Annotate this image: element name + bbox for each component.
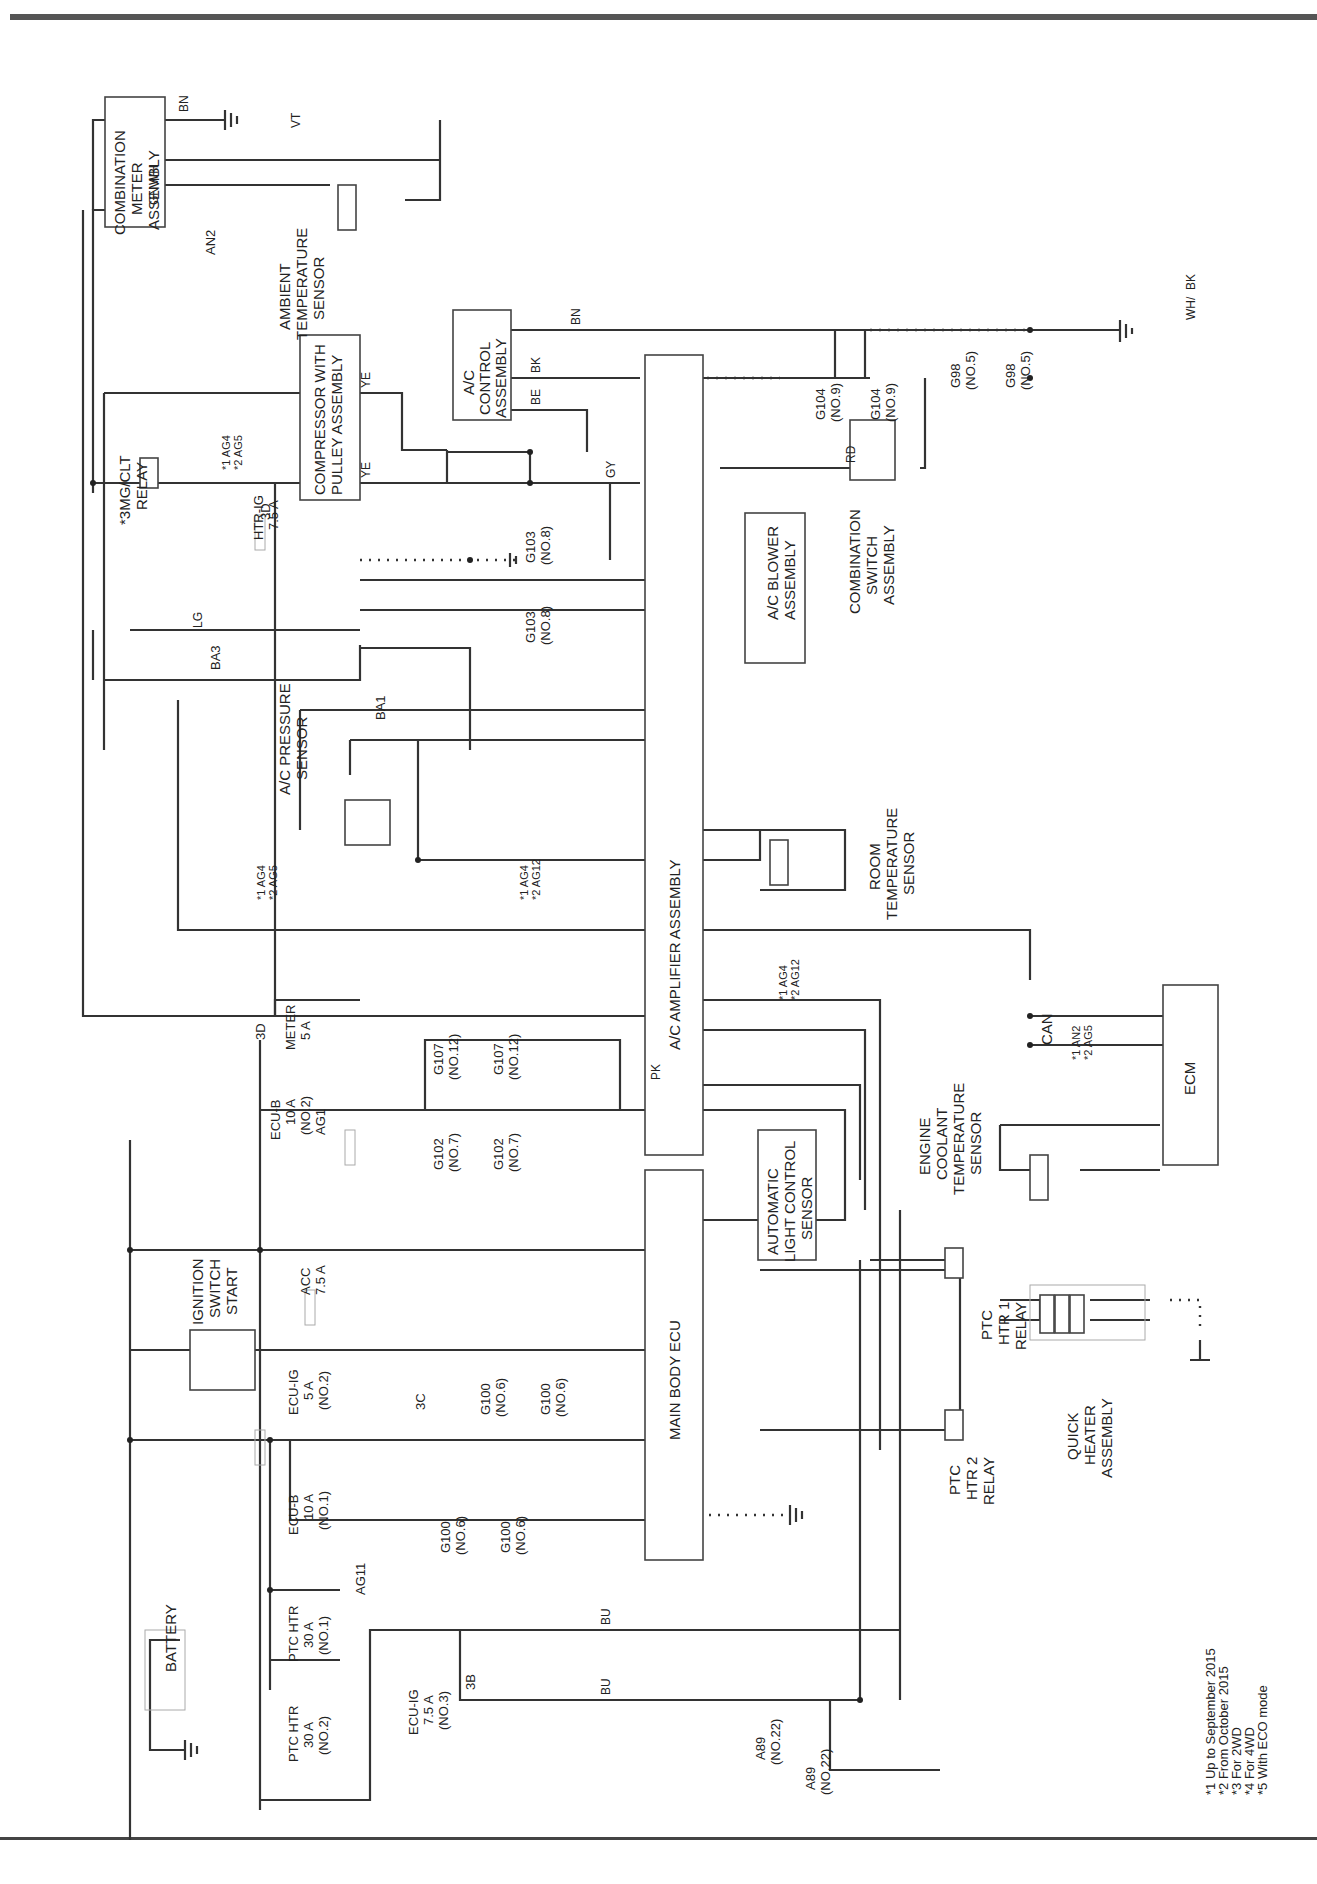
label-combination-switch-3: ASSEMBLY: [880, 525, 897, 605]
conn-an2-9: *1 AN2: [1070, 1026, 1082, 1060]
label-main-body-ecu: MAIN BODY ECU: [666, 1320, 683, 1440]
wire-bk-1: BK: [529, 357, 543, 373]
fuse-ptc2-rating: 30 A: [301, 1722, 316, 1748]
fuse-acc: [345, 1130, 355, 1165]
label-combination-switch-2: SWITCH: [863, 536, 880, 595]
heater-element-3: [1040, 1295, 1054, 1333]
a89-a-no: (NO.22): [768, 1719, 783, 1765]
label-ect-1: ENGINE: [916, 1117, 933, 1175]
label-auto-light-1: AUTOMATIC: [764, 1168, 781, 1255]
fuse-ecu-b1-name: ECU-B: [286, 1495, 301, 1535]
g98-b-no: (NO.5): [1018, 351, 1033, 390]
label-room-sensor-3: SENSOR: [900, 831, 917, 895]
g104-b: G104: [868, 388, 883, 420]
label-ignition-2: SWITCH: [206, 1259, 223, 1318]
g98-b: G98: [1003, 363, 1018, 388]
g102-b-no: (NO.7): [506, 1133, 521, 1172]
g100-c: G100: [438, 1521, 453, 1553]
g100-d: G100: [498, 1521, 513, 1553]
fuse-ecu-ig2-no: (NO.2): [316, 1371, 331, 1410]
conn-ag5-2: *2 AG5: [232, 435, 244, 470]
label-ac-pressure-2: SENSOR: [293, 716, 310, 780]
g100-d-no: (NO.6): [513, 1516, 528, 1555]
label-ac-control-2: CONTROL: [476, 342, 493, 415]
conn-ba3: BA3: [208, 645, 223, 670]
label-battery: BATTERY: [162, 1604, 179, 1672]
wire-gy-1: GY: [604, 461, 618, 478]
conn-3d-a: 3D: [258, 503, 273, 520]
wiring-diagram: COMBINATION METER ASSEMBLY AMBIENT TEMPE…: [0, 0, 1317, 1884]
conn-ag11: AG11: [353, 1563, 368, 1595]
g103-a-no: (NO.8): [538, 526, 553, 565]
conn-ag4-7: *1 AG4: [777, 965, 789, 1000]
g100-c-no: (NO.6): [453, 1516, 468, 1555]
label-ptc2-relay-3: RELAY: [980, 1457, 997, 1505]
label-can: CAN: [1038, 1013, 1055, 1045]
fuse-ecu-b2-name: ECU-B: [268, 1100, 283, 1140]
wire-whbk-slash: /: [1184, 296, 1198, 300]
g98-a-no: (NO.5): [963, 351, 978, 390]
wire-vt-1: VT: [289, 112, 303, 128]
g107-a-no: (NO.12): [446, 1034, 461, 1080]
wire-whbk-bk: BK: [1184, 274, 1198, 290]
g104-a-no: (NO.9): [828, 383, 843, 422]
footnotes: *1 Up to September 2015 *2 From October …: [1203, 1648, 1270, 1795]
label-compressor-1: COMPRESSOR WITH: [311, 344, 328, 495]
ac-pressure-sensor-symbol: [345, 800, 390, 845]
g102-a: G102: [431, 1138, 446, 1170]
wire-rd-1: RD: [844, 445, 858, 463]
conn-3c: 3C: [413, 1393, 428, 1410]
g107-b-no: (NO.12): [506, 1034, 521, 1080]
label-auto-light-2: LIGHT CONTROL: [781, 1141, 798, 1262]
wire-bn-1: BN: [177, 95, 191, 112]
fuse-ecu-b1-rating: 10 A: [301, 1494, 316, 1520]
g100-a: G100: [478, 1383, 493, 1415]
g103-b-no: (NO.8): [538, 606, 553, 645]
g98-a: G98: [948, 363, 963, 388]
conn-3d-b: 3D: [253, 1023, 268, 1040]
fuse-ptc1-no: (NO.1): [316, 1616, 331, 1655]
label-combination-meter-2: METER: [128, 162, 145, 215]
label-ac-amplifier: A/C AMPLIFIER ASSEMBLY: [666, 859, 683, 1050]
fuse-ecu-b2-no: (NO.2): [298, 1096, 313, 1135]
wire-bn-2: BN: [569, 308, 583, 325]
label-ignition-3: START: [223, 1267, 240, 1315]
fuse-ptc1-rating: 30 A: [301, 1622, 316, 1648]
g100-b-no: (NO.6): [553, 1378, 568, 1417]
wire-be-1: BE: [529, 389, 543, 405]
g104-b-no: (NO.9): [883, 383, 898, 422]
wire-gn-1: GN: [147, 187, 161, 205]
g100-b: G100: [538, 1383, 553, 1415]
wire-wh-1: WH: [147, 165, 161, 185]
a89-b: A89: [803, 1767, 818, 1790]
label-ambient-2: TEMPERATURE: [293, 228, 310, 340]
wire-ye-2: YE: [359, 462, 373, 478]
label-ecm: ECM: [1181, 1062, 1198, 1095]
label-ac-control-1: A/C: [460, 370, 477, 395]
label-auto-light-3: SENSOR: [798, 1176, 815, 1240]
ptc2-relay-coil: [945, 1410, 963, 1440]
wire-whbk-wh: WH: [1184, 300, 1198, 320]
label-ptc2-relay-2: HTR 2: [963, 1457, 980, 1500]
fuse-ecu-ig3-name: ECU-IG: [406, 1690, 421, 1736]
fuse-meter-name: METER: [283, 1005, 298, 1051]
conn-ag4-5: *1 AG4: [518, 865, 530, 900]
label-quick-heater-2: HEATER: [1081, 1405, 1098, 1465]
heater-element-2: [1055, 1295, 1069, 1333]
fuse-ecu-b2-rating: 10 A: [283, 1099, 298, 1125]
fuse-ecu-ig2-name: ECU-IG: [286, 1370, 301, 1416]
g104-a: G104: [813, 388, 828, 420]
label-ptc2-relay-1: PTC: [946, 1465, 963, 1495]
fuse-acc-name: ACC: [298, 1268, 313, 1295]
fuse-ecu-b1-no: (NO.1): [316, 1491, 331, 1530]
heater-element-1: [1070, 1295, 1084, 1333]
label-combination-meter-1: COMBINATION: [111, 130, 128, 235]
room-thermistor: [770, 840, 788, 885]
fuse-ecu-ig2-rating: 5 A: [301, 1381, 316, 1400]
conn-an2: AN2: [203, 230, 218, 255]
g107-a: G107: [431, 1043, 446, 1075]
label-mgclt-relay-1: *3MG/CLT: [116, 455, 133, 525]
ptc1-relay-coil: [945, 1248, 963, 1278]
g103-b: G103: [523, 611, 538, 643]
a89-a: A89: [753, 1737, 768, 1760]
